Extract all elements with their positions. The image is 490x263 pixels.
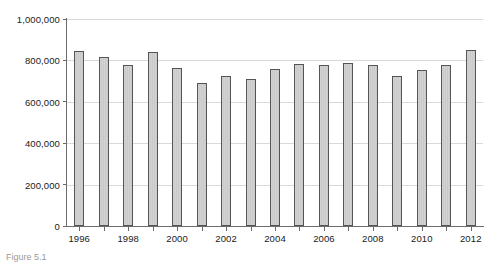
bar [148, 52, 158, 226]
bar-chart: 0200,000400,000600,000800,0001,000,000 1… [0, 0, 490, 263]
x-tick-mark [202, 227, 203, 231]
bar [368, 65, 378, 226]
x-axis-tick-label: 2012 [460, 233, 482, 244]
bar [319, 65, 329, 226]
bar [221, 76, 231, 226]
x-axis-tick-label: 1998 [117, 233, 139, 244]
bar [123, 65, 133, 226]
x-axis-tick-label: 2000 [166, 233, 188, 244]
x-axis-tick-label: 2004 [264, 233, 286, 244]
plot-area: 0200,000400,000600,000800,0001,000,000 [67, 19, 483, 226]
bar [417, 70, 427, 226]
x-tick-mark [446, 227, 447, 231]
x-tick-mark [348, 227, 349, 231]
bar [197, 83, 207, 226]
x-axis-tick-label: 2008 [362, 233, 384, 244]
bar [99, 57, 109, 226]
x-tick-mark [153, 227, 154, 231]
y-axis-tick-label: 800,000 [25, 55, 67, 66]
y-axis-tick-label: 400,000 [25, 138, 67, 149]
x-tick-mark [177, 227, 178, 231]
x-tick-mark [422, 227, 423, 231]
x-tick-mark [373, 227, 374, 231]
x-axis-tick-label: 2002 [215, 233, 237, 244]
x-tick-mark [79, 227, 80, 231]
x-tick-mark [299, 227, 300, 231]
bars-group [67, 19, 483, 226]
x-axis-tick-label: 1996 [68, 233, 90, 244]
y-axis-tick-label: 0 [55, 221, 67, 232]
bar [343, 63, 353, 226]
y-axis-tick-label: 200,000 [25, 179, 67, 190]
bar [441, 65, 451, 226]
x-tick-mark [397, 227, 398, 231]
x-tick-mark [471, 227, 472, 231]
bar [392, 76, 402, 226]
x-tick-mark [128, 227, 129, 231]
bar [294, 64, 304, 226]
x-tick-mark [251, 227, 252, 231]
bar [466, 50, 476, 226]
bar [172, 68, 182, 226]
x-tick-mark [104, 227, 105, 231]
y-axis-tick-label: 1,000,000 [17, 14, 67, 25]
bar [246, 79, 256, 226]
y-axis-tick-label: 600,000 [25, 96, 67, 107]
x-tick-mark [275, 227, 276, 231]
x-tick-mark [226, 227, 227, 231]
bar [270, 69, 280, 226]
bar [74, 51, 84, 226]
x-axis-tick-label: 2010 [411, 233, 433, 244]
x-axis-tick-label: 2006 [313, 233, 335, 244]
x-tick-mark [324, 227, 325, 231]
figure-caption: Figure 5.1 [6, 252, 47, 263]
